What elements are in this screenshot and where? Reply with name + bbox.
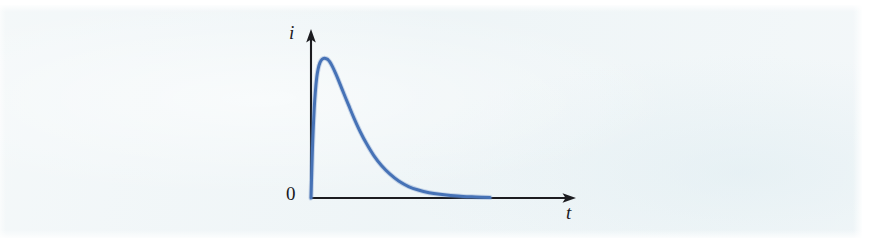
origin-label: 0	[286, 184, 296, 203]
x-axis-label: t	[566, 203, 571, 222]
current-curve	[311, 58, 490, 198]
y-axis-label: i	[289, 23, 294, 42]
figure-root: i 0 t	[0, 0, 870, 250]
plot-area	[0, 0, 870, 250]
